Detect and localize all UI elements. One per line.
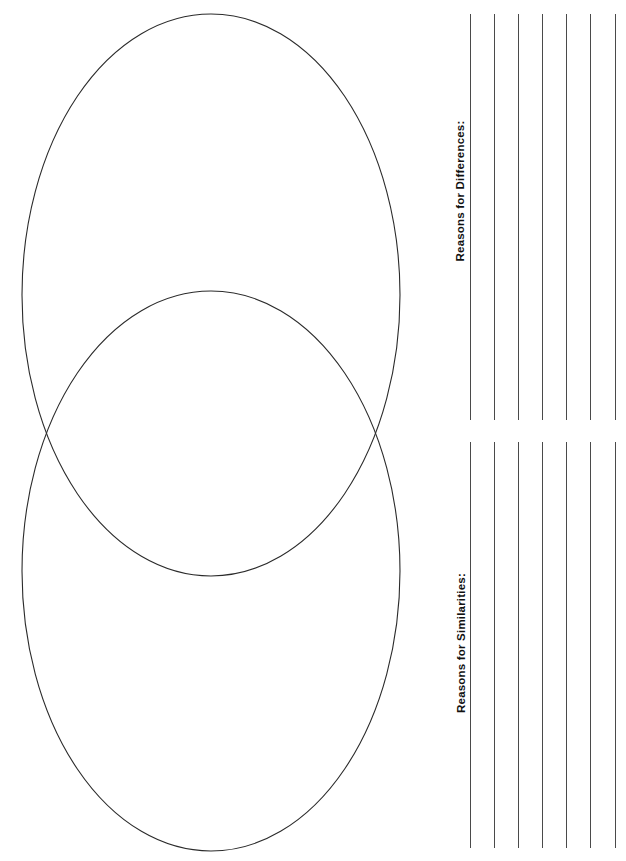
venn-ellipse-bottom[interactable] [22, 291, 400, 851]
worksheet-page: Reasons for Differences: Reasons for Sim… [0, 0, 626, 861]
reasons-for-differences-label: Reasons for Differences: [454, 111, 466, 271]
venn-ellipse-top[interactable] [22, 14, 400, 576]
writing-rule-line[interactable] [566, 14, 567, 420]
writing-rule-line[interactable] [615, 14, 616, 420]
writing-rule-line[interactable] [518, 14, 519, 420]
writing-rule-line[interactable] [542, 14, 543, 420]
writing-rule-line[interactable] [566, 442, 567, 848]
writing-rule-line[interactable] [542, 442, 543, 848]
reasons-for-similarities-section: Reasons for Similarities: [420, 430, 626, 861]
reasons-for-similarities-label: Reasons for Similarities: [455, 561, 467, 726]
reasons-for-differences-section: Reasons for Differences: [420, 0, 626, 430]
venn-diagram [0, 0, 420, 861]
writing-rule-line[interactable] [615, 442, 616, 848]
writing-rule-line[interactable] [518, 442, 519, 848]
writing-rule-line[interactable] [470, 14, 471, 420]
writing-rule-line[interactable] [470, 442, 471, 848]
writing-rule-line[interactable] [494, 442, 495, 848]
venn-diagram-area [0, 0, 420, 861]
writing-rule-line[interactable] [590, 442, 591, 848]
writing-rule-line[interactable] [494, 14, 495, 420]
writing-rule-line[interactable] [590, 14, 591, 420]
writing-lines-panel: Reasons for Differences: Reasons for Sim… [420, 0, 626, 861]
